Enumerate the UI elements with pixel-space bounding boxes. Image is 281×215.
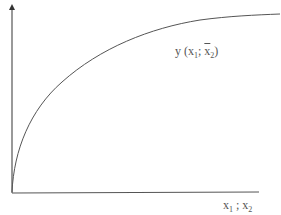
x-axis [12,192,259,193]
curve-label: y (x1; x2) [175,44,218,60]
curve-y [12,14,280,192]
chart-canvas [0,0,281,215]
x-axis-label: x1 ; x2 [223,198,252,214]
y-axis-arrow-icon [9,4,15,10]
